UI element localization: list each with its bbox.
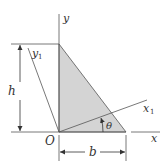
origin-label: O: [45, 134, 55, 148]
y-axis-label: y: [62, 12, 70, 25]
theta-label: θ: [106, 120, 112, 131]
y1-axis-sub: 1: [38, 53, 42, 61]
x-axis-label: x: [151, 132, 158, 145]
x1-axis-sub: 1: [150, 108, 154, 116]
height-label: h: [8, 84, 16, 98]
x1-axis-label: x: [143, 102, 150, 115]
base-label: b: [89, 145, 97, 159]
triangle-diagram: y x y 1 x 1 O h b θ: [0, 0, 163, 167]
shaded-triangle: [59, 44, 126, 132]
y1-axis: [28, 48, 59, 132]
